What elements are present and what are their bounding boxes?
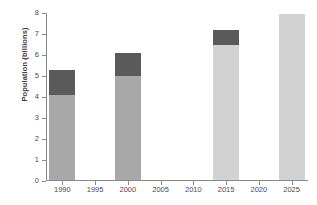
y-tick: 5 [42, 76, 46, 77]
y-axis-title: Population (billions) [20, 0, 29, 135]
y-tick: 7 [42, 34, 46, 35]
y-tick: 2 [42, 139, 46, 140]
y-tick-label: 2 [35, 134, 39, 143]
y-tick-label: 3 [35, 113, 39, 122]
bar-segment-top [115, 53, 141, 76]
population-bar-chart: Population (billions) 012345678 19901995… [0, 0, 317, 205]
bar-segment-base [115, 76, 141, 180]
bar-segment-top [213, 30, 239, 45]
bar-2015 [213, 30, 239, 180]
bar-2025 [279, 14, 305, 180]
y-tick-label: 7 [35, 29, 39, 38]
y-tick: 6 [42, 55, 46, 56]
x-tick-label: 2000 [120, 185, 137, 194]
plot-area: 012345678 199019952000200520102015202020… [46, 13, 308, 181]
bar-2000 [115, 53, 141, 180]
y-tick-label: 5 [35, 71, 39, 80]
y-tick: 1 [42, 160, 46, 161]
bar-segment-base [49, 95, 75, 180]
y-tick: 0 [42, 181, 46, 182]
y-axis-line [46, 13, 47, 181]
y-tick-label: 4 [35, 92, 39, 101]
x-tick-label: 1995 [87, 185, 104, 194]
y-tick: 4 [42, 97, 46, 98]
x-tick-label: 2025 [283, 185, 300, 194]
x-tick-label: 2020 [251, 185, 268, 194]
y-tick-label: 1 [35, 155, 39, 164]
x-axis-line [46, 180, 308, 181]
y-tick: 8 [42, 13, 46, 14]
bar-segment-top [49, 70, 75, 95]
bar-segment-base [279, 14, 305, 180]
x-tick-label: 2010 [185, 185, 202, 194]
x-tick-label: 2015 [218, 185, 235, 194]
x-tick-label: 1990 [54, 185, 71, 194]
chart-title [48, 0, 268, 3]
y-tick-label: 6 [35, 50, 39, 59]
bar-segment-base [213, 45, 239, 180]
y-tick: 3 [42, 118, 46, 119]
y-tick-label: 0 [35, 176, 39, 185]
bar-1990 [49, 70, 75, 180]
y-tick-label: 8 [35, 8, 39, 17]
x-tick-label: 2005 [152, 185, 169, 194]
